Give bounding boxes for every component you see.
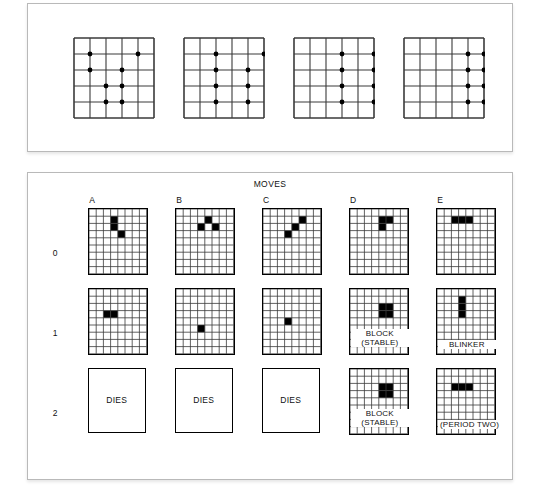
life-grid-svg — [176, 289, 234, 354]
outcome-dies-box-b: DIES — [175, 368, 233, 433]
lattice-dot — [466, 52, 471, 57]
lattice-dot — [262, 52, 265, 57]
life-grid-svg — [176, 209, 234, 274]
outcome-label: DIES — [193, 395, 214, 405]
lattice-dot — [482, 100, 485, 105]
lattice-figure-2 — [183, 37, 264, 118]
lattice-figure-1 — [73, 37, 154, 118]
period-two-label-line-0: (PERIOD TWO) — [440, 420, 494, 429]
outcome-dies-box-a: DIES — [88, 368, 146, 433]
live-cell — [285, 231, 292, 238]
live-cell — [386, 216, 393, 223]
lattice-dot — [104, 84, 109, 89]
lattice-dot — [482, 84, 485, 89]
column-header-a: A — [65, 195, 119, 205]
period-two-label: (PERIOD TWO) — [438, 420, 496, 429]
lattice-dot — [466, 100, 471, 105]
life-grid-a-gen0 — [88, 208, 148, 275]
live-cell — [198, 223, 205, 230]
live-cell — [111, 223, 118, 230]
life-grid-svg — [89, 209, 147, 274]
life-grid-svg — [263, 289, 321, 354]
live-cell — [299, 216, 306, 223]
live-cell — [386, 383, 393, 390]
live-cell — [386, 311, 393, 318]
lattice-svg — [403, 37, 485, 119]
lattice-dot — [466, 84, 471, 89]
live-cell — [198, 325, 205, 332]
lattice-dot — [372, 100, 375, 105]
lattice-dot — [120, 100, 125, 105]
live-cell — [111, 311, 118, 318]
live-cell — [451, 383, 458, 390]
outcome-dies-box-c: DIES — [262, 368, 320, 433]
column-header-c: C — [239, 195, 293, 205]
lattice-dot — [372, 52, 375, 57]
lattice-dot — [88, 52, 93, 57]
live-cell — [111, 216, 118, 223]
lattice-dot — [340, 100, 345, 105]
lattice-dot — [120, 84, 125, 89]
live-cell — [379, 391, 386, 398]
life-grid-b-gen0 — [175, 208, 235, 275]
block-stable-row2-line-0: BLOCK — [353, 409, 407, 418]
lattice-dot — [340, 84, 345, 89]
lattice-dot — [120, 68, 125, 73]
column-header-d: D — [326, 195, 380, 205]
live-cell — [386, 303, 393, 310]
lattice-dot — [214, 52, 219, 57]
lattice-dot — [136, 52, 141, 57]
moves-title: MOVES — [28, 179, 512, 189]
live-cell — [292, 223, 299, 230]
live-cell — [118, 231, 125, 238]
block-stable-row2: BLOCK(STABLE) — [351, 409, 409, 427]
live-cell — [379, 216, 386, 223]
blinker-label: BLINKER — [438, 340, 496, 349]
live-cell — [379, 223, 386, 230]
life-grid-svg — [437, 209, 495, 274]
lattice-dot — [246, 100, 251, 105]
live-cell — [451, 216, 458, 223]
live-cell — [379, 311, 386, 318]
live-cell — [466, 216, 473, 223]
block-stable-row1-line-1: (STABLE) — [353, 338, 407, 347]
life-grid-svg — [350, 209, 408, 274]
life-grid-c-gen1 — [262, 288, 322, 355]
lattice-dot — [104, 100, 109, 105]
life-grid-svg — [89, 289, 147, 354]
lattice-row — [28, 4, 512, 151]
lattice-svg — [293, 37, 375, 119]
block-stable-row2-line-1: (STABLE) — [353, 418, 407, 427]
lattice-dot — [372, 68, 375, 73]
life-grid-d-gen0 — [349, 208, 409, 275]
top-lattice-panel — [27, 3, 513, 152]
lattice-dot — [214, 84, 219, 89]
live-cell — [386, 391, 393, 398]
life-grid-svg — [263, 209, 321, 274]
block-stable-row1-line-0: BLOCK — [353, 329, 407, 338]
live-cell — [379, 383, 386, 390]
outcome-label: DIES — [280, 395, 301, 405]
live-cell — [459, 383, 466, 390]
lattice-dot — [214, 100, 219, 105]
blinker-label-line-0: BLINKER — [440, 340, 494, 349]
block-stable-row1: BLOCK(STABLE) — [351, 329, 409, 347]
live-cell — [459, 296, 466, 303]
live-cell — [459, 311, 466, 318]
lattice-dot — [340, 52, 345, 57]
row-label-0: 0 — [48, 248, 62, 258]
lattice-dot — [340, 68, 345, 73]
life-grid-c-gen0 — [262, 208, 322, 275]
live-cell — [212, 223, 219, 230]
column-header-e: E — [413, 195, 467, 205]
live-cell — [103, 311, 110, 318]
lattice-dot — [372, 84, 375, 89]
life-grid-b-gen1 — [175, 288, 235, 355]
lattice-dot — [88, 68, 93, 73]
lattice-dot — [482, 68, 485, 73]
lattice-svg — [73, 37, 155, 119]
lattice-dot — [466, 68, 471, 73]
moves-panel: MOVES A B C D E 0 1 2 DIESDIESDIESBLOCK(… — [27, 172, 513, 480]
live-cell — [379, 303, 386, 310]
lattice-dot — [482, 52, 485, 57]
